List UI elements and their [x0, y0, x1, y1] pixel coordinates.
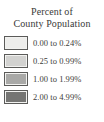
legend-item: 0.00 to 0.24% — [0, 35, 104, 53]
legend-title: Percent of County Population — [0, 6, 104, 29]
legend-title-line-2: County Population — [0, 18, 104, 30]
legend-swatch-icon — [4, 36, 28, 50]
legend-swatch-icon — [4, 90, 28, 104]
legend-item-label: 0.00 to 0.24% — [33, 35, 81, 51]
legend-item-list: 0.00 to 0.24% 0.25 to 0.99% 1.00 to 1.99… — [0, 35, 104, 107]
legend-item: 1.00 to 1.99% — [0, 71, 104, 89]
legend-item: 2.00 to 4.99% — [0, 89, 104, 107]
map-legend: Percent of County Population 0.00 to 0.2… — [0, 0, 104, 122]
legend-swatch-icon — [4, 54, 28, 68]
legend-item: 0.25 to 0.99% — [0, 53, 104, 71]
legend-item-label: 0.25 to 0.99% — [33, 53, 81, 69]
legend-item-label: 2.00 to 4.99% — [33, 89, 81, 105]
legend-title-line-1: Percent of — [0, 6, 104, 18]
legend-item-label: 1.00 to 1.99% — [33, 71, 81, 87]
legend-swatch-icon — [4, 72, 28, 86]
